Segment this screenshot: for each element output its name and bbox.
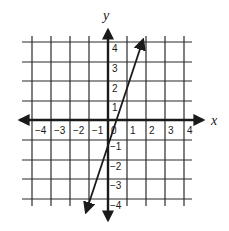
x-tick-label: −2: [73, 125, 85, 136]
coordinate-plane: x y −4 −3 −2 −1 0 1 2 3 4 4 3 2 1 −1 −2 …: [0, 0, 229, 231]
y-axis-label: y: [101, 8, 110, 23]
origin-label: 0: [111, 125, 117, 136]
x-tick-labels: −4 −3 −2 −1 0 1 2 3 4: [35, 125, 193, 136]
x-tick-label: 2: [149, 125, 155, 136]
x-tick-label: 3: [168, 125, 174, 136]
y-tick-label: 2: [112, 83, 118, 94]
y-tick-label: 4: [112, 43, 118, 54]
x-tick-label: 4: [187, 125, 193, 136]
y-tick-label: −2: [110, 161, 122, 172]
y-tick-label: 1: [112, 102, 118, 113]
x-tick-label: −3: [54, 125, 66, 136]
y-tick-label: 3: [112, 63, 118, 74]
x-tick-label: 1: [130, 125, 136, 136]
x-tick-label: −1: [92, 125, 104, 136]
x-tick-label: −4: [35, 125, 47, 136]
x-axis-label: x: [210, 113, 218, 128]
y-tick-label: −4: [110, 200, 122, 211]
y-tick-label: −3: [110, 180, 122, 191]
y-tick-label: −1: [110, 141, 122, 152]
